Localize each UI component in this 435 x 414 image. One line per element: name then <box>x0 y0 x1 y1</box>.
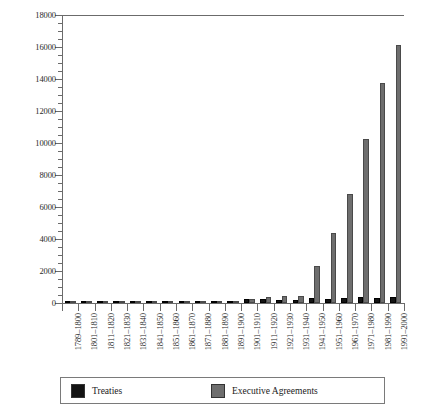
x-axis-tick <box>176 304 177 311</box>
x-axis-tick-label: 1821–1830 <box>123 313 132 350</box>
x-axis-tick <box>192 304 193 311</box>
x-axis-tick <box>225 304 226 311</box>
x-axis-tick-label: 1831–1840 <box>139 313 148 350</box>
x-axis-tick-label: 1941–1950 <box>318 313 327 350</box>
x-axis-tick <box>241 304 242 311</box>
x-axis-tick <box>274 304 275 311</box>
x-axis-tick-label: 1971–1980 <box>367 313 376 350</box>
x-axis-tick-label: 1901–1910 <box>253 313 262 350</box>
x-axis-tick <box>209 304 210 311</box>
x-axis-tick <box>62 304 63 311</box>
x-axis-tick-label: 1911–1920 <box>270 313 279 350</box>
x-axis-tick-label: 1851–1860 <box>172 313 181 350</box>
x-axis-tick <box>127 304 128 311</box>
x-axis-tick-label: 1789–1800 <box>74 313 83 350</box>
x-axis-tick-label: 1951–1960 <box>335 313 344 350</box>
legend-label-treaties: Treaties <box>92 386 122 396</box>
x-axis-tick-label: 1841–1850 <box>156 313 165 350</box>
x-axis-tick <box>323 304 324 311</box>
chart-legend: Treaties Executive Agreements <box>60 377 385 404</box>
x-axis-tick <box>257 304 258 311</box>
x-axis-tick <box>355 304 356 311</box>
x-axis-tick <box>143 304 144 311</box>
x-axis-tick-label: 1981–1990 <box>384 313 393 350</box>
x-axis-tick-label: 1801–1810 <box>90 313 99 350</box>
x-axis-tick <box>160 304 161 311</box>
x-axis-tick-label: 1891–1900 <box>237 313 246 350</box>
bar-chart: 0200040006000800010000120001400016000180… <box>0 0 435 414</box>
x-axis-tick <box>404 304 405 311</box>
x-axis-tick-label: 1861–1870 <box>188 313 197 350</box>
x-axis-tick <box>388 304 389 311</box>
x-axis-tick-label: 1961–1970 <box>351 313 360 350</box>
x-axis-tick <box>78 304 79 311</box>
legend-item-executive-agreements: Executive Agreements <box>211 383 318 399</box>
x-axis-tick <box>290 304 291 311</box>
x-axis-tick <box>111 304 112 311</box>
x-axis-tick <box>95 304 96 311</box>
legend-item-treaties: Treaties <box>71 383 122 399</box>
x-axis-tick-label: 1921–1930 <box>286 313 295 350</box>
x-axis-tick <box>339 304 340 311</box>
x-axis-tick-label: 1811–1820 <box>107 313 116 350</box>
x-axis-tick-label: 1931–1940 <box>302 313 311 350</box>
x-axis: 1789–18001801–18101811–18201821–18301831… <box>0 0 435 414</box>
x-axis-tick-label: 1991–2000 <box>400 313 409 350</box>
gray-square-swatch-icon <box>211 384 225 398</box>
x-axis-tick <box>371 304 372 311</box>
legend-label-executive-agreements: Executive Agreements <box>232 386 318 396</box>
x-axis-tick-label: 1881–1890 <box>221 313 230 350</box>
x-axis-tick-label: 1871–1880 <box>204 313 213 350</box>
black-square-swatch-icon <box>71 384 85 398</box>
x-axis-tick <box>306 304 307 311</box>
